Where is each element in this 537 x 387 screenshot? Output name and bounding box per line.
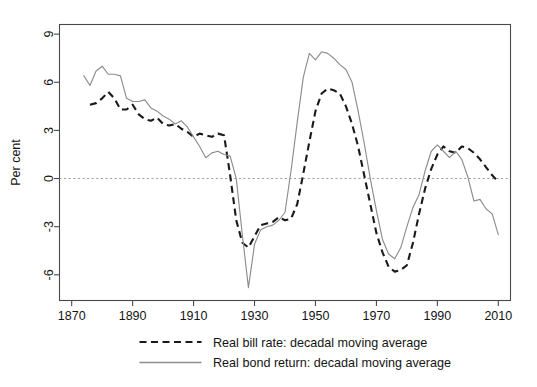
x-tick-label: 1890: [119, 309, 147, 323]
x-tick-label: 1910: [180, 309, 208, 323]
y-tick-label: -6: [43, 269, 57, 280]
legend-label: Real bill rate: decadal moving average: [213, 336, 427, 350]
x-tick-label: 1870: [58, 309, 86, 323]
plot-frame: [60, 25, 511, 301]
x-axis-ticks: 18701890191019301950197019902010: [58, 301, 512, 324]
y-tick-label: 9: [43, 31, 57, 38]
x-tick-label: 2010: [484, 309, 512, 323]
y-axis-ticks: 9630-3-6: [43, 31, 60, 281]
series-line-bond-return: [84, 52, 498, 288]
legend-label: Real bond return: decadal moving average: [213, 356, 451, 370]
chart-figure: 9630-3-6 1870189019101930195019701990201…: [0, 0, 537, 387]
y-axis-label: Per cent: [9, 139, 23, 186]
series-layer: [84, 52, 498, 288]
legend-item: Real bond return: decadal moving average: [140, 356, 452, 370]
x-tick-label: 1950: [302, 309, 330, 323]
legend-item: Real bill rate: decadal moving average: [140, 336, 428, 350]
chart-legend: Real bill rate: decadal moving averageRe…: [140, 336, 452, 371]
chart-canvas: 9630-3-6 1870189019101930195019701990201…: [0, 0, 537, 387]
x-tick-label: 1930: [241, 309, 269, 323]
series-line-bill-rate: [90, 89, 498, 272]
y-tick-label: -3: [43, 221, 57, 232]
x-tick-label: 1970: [363, 309, 391, 323]
y-axis-title: Per cent: [9, 139, 23, 186]
y-tick-label: 0: [43, 175, 57, 182]
y-tick-label: 6: [43, 79, 57, 86]
plot-border: [60, 25, 511, 301]
y-tick-label: 3: [43, 127, 57, 134]
x-tick-label: 1990: [423, 309, 451, 323]
